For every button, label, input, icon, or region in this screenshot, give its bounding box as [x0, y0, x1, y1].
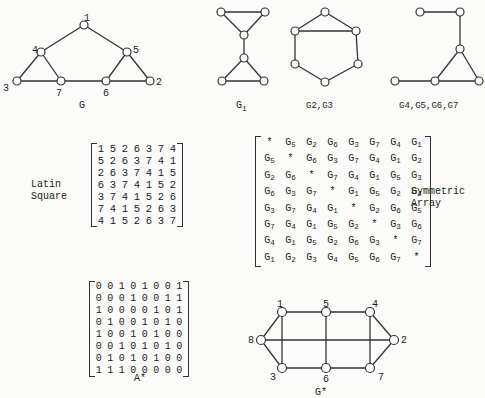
- matrix-cell: 0: [151, 317, 163, 329]
- matrix-row: 4152637: [95, 215, 179, 227]
- matrix-cell: G7: [406, 234, 427, 248]
- matrix-cell: G1: [406, 136, 427, 150]
- matrix-row: G5*G6G3G7G4G1G2: [259, 152, 427, 168]
- matrix-cell: 0: [105, 293, 117, 305]
- matrix-row: G4G1G5G2G6G3*G7: [259, 234, 427, 250]
- matrix-cell: 0: [105, 341, 117, 353]
- matrix-cell: 2: [167, 179, 179, 191]
- matrix-cell: G4: [259, 234, 280, 248]
- matrix-cell: 0: [128, 305, 140, 317]
- matrix-cell: 6: [167, 191, 179, 203]
- vertex-label: 2: [156, 78, 162, 88]
- matrix-cell: 4: [95, 215, 107, 227]
- matrix-cell: 6: [143, 215, 155, 227]
- matrix-cell: G2: [343, 218, 364, 232]
- matrix-cell: 7: [167, 215, 179, 227]
- matrix-cell: *: [280, 152, 301, 166]
- graph-g2g3-caption: G2,G3: [306, 100, 333, 112]
- matrix-row: G6G3G7*G1G5G2G4: [259, 185, 427, 201]
- matrix-cell: G2: [322, 234, 343, 248]
- matrix-cell: 1: [105, 353, 117, 365]
- matrix-row: G3G7G4G1*G2G6G5: [259, 202, 427, 218]
- matrix-row: 10010100: [93, 329, 185, 341]
- matrix-cell: 2: [131, 215, 143, 227]
- matrix-cell: 4: [119, 191, 131, 203]
- matrix-cell: 7: [95, 203, 107, 215]
- matrix-cell: 5: [143, 191, 155, 203]
- matrix-cell: 1: [105, 317, 117, 329]
- matrix-cell: G7: [259, 218, 280, 232]
- matrix-cell: *: [385, 234, 406, 248]
- matrix-cell: G5: [259, 152, 280, 166]
- vertex-label: 4: [32, 46, 38, 56]
- latin-square-matrix: 1526374526374126374156374152374152674152…: [91, 143, 183, 227]
- matrix-row: *G5G2G6G3G7G4G1: [259, 136, 427, 152]
- matrix-cell: G5: [364, 185, 385, 199]
- matrix-cell: G2: [259, 169, 280, 183]
- matrix-cell: G5: [301, 234, 322, 248]
- matrix-cell: G2: [364, 202, 385, 216]
- matrix-cell: G2: [406, 152, 427, 166]
- matrix-cell: G7: [364, 136, 385, 150]
- matrix-cell: 1: [93, 305, 105, 317]
- matrix-cell: 1: [128, 353, 140, 365]
- matrix-row: 10000101: [93, 305, 185, 317]
- matrix-cell: 0: [174, 365, 186, 377]
- matrix-cell: G2: [301, 136, 322, 150]
- matrix-cell: *: [343, 202, 364, 216]
- matrix-cell: 1: [162, 293, 174, 305]
- matrix-cell: G1: [301, 218, 322, 232]
- vertex-label: 6: [323, 375, 329, 385]
- matrix-cell: G4: [343, 169, 364, 183]
- matrix-cell: 0: [128, 281, 140, 293]
- matrix-cell: *: [322, 185, 343, 199]
- graph-g4-g7-caption: G4,G5,G6,G7: [399, 100, 458, 112]
- matrix-cell: 0: [151, 365, 163, 377]
- matrix-row: 00010011: [93, 293, 185, 305]
- matrix-cell: G1: [364, 169, 385, 183]
- matrix-cell: G3: [301, 251, 322, 265]
- matrix-cell: 6: [155, 203, 167, 215]
- matrix-cell: *: [301, 169, 322, 183]
- matrix-cell: G6: [343, 234, 364, 248]
- matrix-cell: 5: [95, 155, 107, 167]
- matrix-cell: 0: [128, 317, 140, 329]
- symmetric-array-matrix: *G5G2G6G3G7G4G1G5*G6G3G7G4G1G2G2G6*G7G4G…: [255, 136, 431, 267]
- matrix-cell: 0: [139, 329, 151, 341]
- matrix-cell: G4: [385, 136, 406, 150]
- matrix-cell: 1: [151, 305, 163, 317]
- graph-g2g3-edges: [295, 12, 358, 82]
- matrix-cell: 0: [93, 317, 105, 329]
- graph-g4-g7-vertices: [391, 8, 483, 85]
- vertex-label: 4: [372, 300, 378, 310]
- matrix-cell: 3: [131, 155, 143, 167]
- matrix-cell: 1: [131, 191, 143, 203]
- matrix-cell: G1: [385, 152, 406, 166]
- matrix-cell: 2: [143, 203, 155, 215]
- matrix-cell: 1: [139, 341, 151, 353]
- matrix-cell: G1: [343, 185, 364, 199]
- vertex-label: 6: [103, 89, 109, 99]
- matrix-cell: 1: [105, 365, 117, 377]
- vertex-label: 3: [270, 373, 276, 383]
- matrix-cell: 1: [174, 281, 186, 293]
- matrix-cell: 7: [119, 179, 131, 191]
- matrix-cell: 2: [119, 143, 131, 155]
- matrix-cell: 0: [116, 317, 128, 329]
- matrix-cell: G7: [343, 152, 364, 166]
- vertex-label: 3: [3, 84, 9, 94]
- matrix-row: 3741526: [95, 191, 179, 203]
- graph-g1-edges: [221, 12, 265, 81]
- matrix-cell: G6: [259, 185, 280, 199]
- matrix-cell: 0: [105, 281, 117, 293]
- graph-g2g3-vertices: [291, 8, 362, 86]
- matrix-row: 01010100: [93, 353, 185, 365]
- matrix-cell: 0: [139, 305, 151, 317]
- matrix-row: 01001010: [93, 317, 185, 329]
- matrix-cell: G1: [322, 202, 343, 216]
- matrix-cell: 0: [162, 305, 174, 317]
- matrix-cell: G7: [385, 251, 406, 265]
- matrix-cell: 0: [93, 293, 105, 305]
- matrix-cell: G5: [343, 251, 364, 265]
- matrix-cell: 1: [116, 341, 128, 353]
